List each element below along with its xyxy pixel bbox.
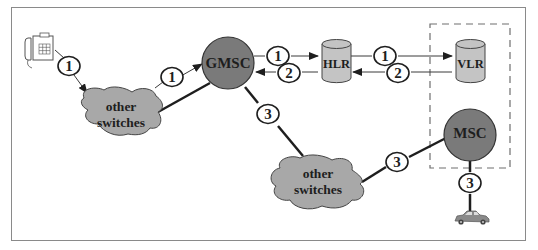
vlr-label: VLR xyxy=(457,57,484,71)
arrow-step1-to-cloud-left xyxy=(74,75,87,93)
msc-label: MSC xyxy=(453,125,486,141)
svg-text:3: 3 xyxy=(264,106,272,122)
gmsc-label: GMSC xyxy=(206,55,251,71)
cloud-left-label-line1: other xyxy=(106,99,137,114)
step-badge-phone-to-cloud: 1 xyxy=(58,57,80,76)
trunk-step3-msc xyxy=(409,138,446,157)
svg-text:3: 3 xyxy=(393,154,401,170)
telephone-icon xyxy=(25,33,53,68)
arrow-step1-to-gmsc xyxy=(181,64,202,76)
svg-text:1: 1 xyxy=(168,69,176,85)
trunk-cloud-left-gmsc xyxy=(158,83,210,112)
step-badge-cloud-to-msc: 3 xyxy=(386,153,408,172)
call-routing-diagram: other switches other switches GMSC MSC H… xyxy=(0,0,538,250)
step-badge-hlr-to-vlr: 1 xyxy=(374,47,396,66)
gmsc-node: GMSC xyxy=(202,37,254,89)
svg-text:3: 3 xyxy=(466,175,474,191)
svg-text:1: 1 xyxy=(274,48,282,64)
vlr-database: VLR xyxy=(456,40,485,83)
link-cloud-left-step1 xyxy=(155,82,163,88)
cloud-other-switches-left: other switches xyxy=(81,87,162,135)
step-badge-msc-to-car: 3 xyxy=(459,174,481,193)
svg-text:2: 2 xyxy=(394,65,402,81)
cloud-other-switches-center: other switches xyxy=(271,155,364,209)
trunk-step3-cloud-center xyxy=(278,126,303,156)
car-icon xyxy=(455,211,489,225)
trunk-gmsc-step3 xyxy=(245,87,258,103)
svg-text:2: 2 xyxy=(285,65,293,81)
step-badge-hlr-to-gmsc: 2 xyxy=(278,64,300,83)
hlr-database: HLR xyxy=(322,40,351,83)
msc-node: MSC xyxy=(444,109,496,161)
svg-text:1: 1 xyxy=(381,48,389,64)
step-badge-cloud-to-gmsc: 1 xyxy=(161,68,183,87)
step-badge-vlr-to-hlr: 2 xyxy=(387,64,409,83)
cloud-left-label-line2: switches xyxy=(97,115,145,130)
svg-text:1: 1 xyxy=(65,58,73,74)
trunk-cloud-center-step3 xyxy=(362,167,386,182)
step-badge-gmsc-to-cloud: 3 xyxy=(257,105,279,124)
step-badge-gmsc-to-hlr: 1 xyxy=(267,47,289,66)
hlr-label: HLR xyxy=(323,57,351,71)
cloud-center-label-line1: other xyxy=(303,166,334,181)
link-phone-step1 xyxy=(55,50,64,58)
cloud-center-label-line2: switches xyxy=(294,182,342,197)
